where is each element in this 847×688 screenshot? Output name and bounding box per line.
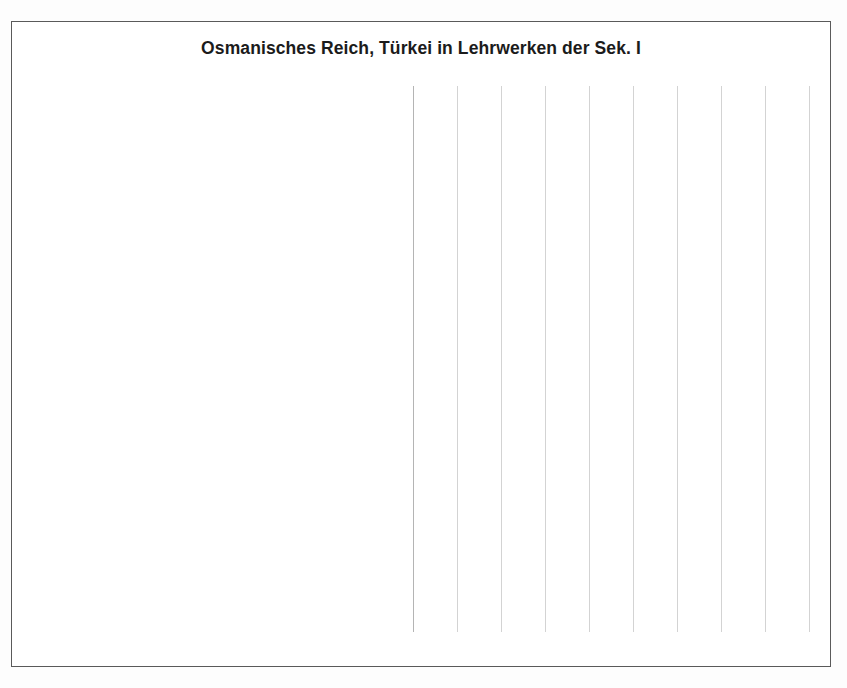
gridline-8 bbox=[589, 86, 590, 632]
plot-area bbox=[413, 86, 809, 632]
gridline-4 bbox=[501, 86, 502, 632]
gridline-10 bbox=[633, 86, 634, 632]
gridline-6 bbox=[545, 86, 546, 632]
gridline-0 bbox=[413, 86, 414, 632]
gridline-14 bbox=[721, 86, 722, 632]
gridline-16 bbox=[765, 86, 766, 632]
gridline-18 bbox=[809, 86, 810, 632]
gridline-2 bbox=[457, 86, 458, 632]
chart-title: Osmanisches Reich, Türkei in Lehrwerken … bbox=[12, 38, 830, 59]
scanned-page: Osmanisches Reich, Türkei in Lehrwerken … bbox=[0, 0, 847, 688]
chart-frame: Osmanisches Reich, Türkei in Lehrwerken … bbox=[11, 21, 831, 667]
gridline-12 bbox=[677, 86, 678, 632]
x-axis-tick-labels bbox=[413, 638, 809, 662]
